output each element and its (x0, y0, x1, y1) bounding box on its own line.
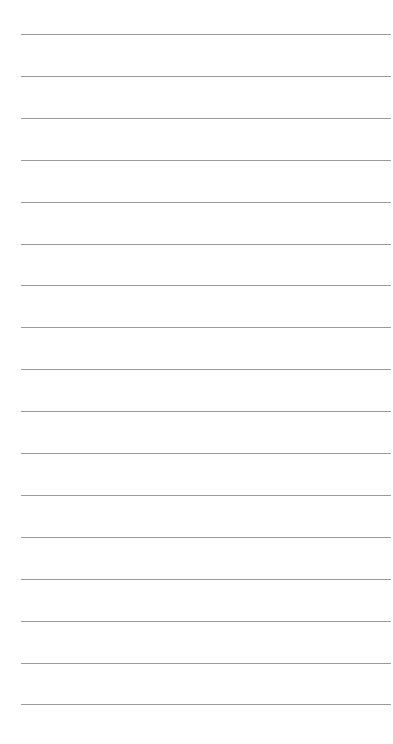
ruled-line (21, 621, 391, 622)
ruled-line (21, 76, 391, 77)
ruled-line (21, 537, 391, 538)
ruled-line (21, 244, 391, 245)
ruled-line (21, 495, 391, 496)
ruled-line (21, 202, 391, 203)
ruled-line (21, 663, 391, 664)
ruled-line (21, 327, 391, 328)
ruled-line (21, 704, 391, 705)
ruled-line (21, 369, 391, 370)
ruled-line (21, 411, 391, 412)
ruled-line (21, 453, 391, 454)
ruled-line (21, 160, 391, 161)
ruled-line (21, 285, 391, 286)
ruled-line (21, 118, 391, 119)
ruled-line (21, 579, 391, 580)
lined-paper-page (0, 0, 393, 744)
ruled-line (21, 34, 391, 35)
